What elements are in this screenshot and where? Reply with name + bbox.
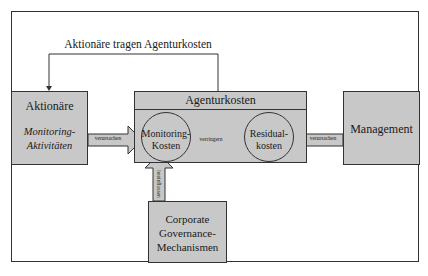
agenturkosten-title: Agenturkosten <box>134 93 307 108</box>
edge-label-verursachen-right: verursachen <box>303 135 343 141</box>
aktionaere-title: Aktionäre <box>11 99 88 114</box>
residual-kosten-line2: kosten <box>239 140 299 151</box>
aktionaere-subtitle-2: Aktivitäten <box>11 140 88 151</box>
agenturkosten-header-divider <box>134 109 307 110</box>
monitoring-kosten-line1: Monitoring- <box>136 128 196 139</box>
governance-line1: Corporate <box>148 213 227 225</box>
edge-label-beeinflussen: beeinflussen <box>156 164 162 204</box>
feedback-label: Aktionäre tragen Agenturkosten <box>58 38 218 50</box>
edge-label-verursachen-left: verursachen <box>88 135 128 141</box>
management-title: Management <box>343 122 420 137</box>
governance-line2: Governance- <box>148 227 227 239</box>
residual-kosten-line1: Residual- <box>239 128 299 139</box>
aktionaere-subtitle-1: Monitoring- <box>11 126 88 137</box>
edge-label-verringern: verringern <box>190 136 232 142</box>
governance-line3: Mechanismen <box>148 241 227 253</box>
monitoring-kosten-line2: Kosten <box>136 140 196 151</box>
